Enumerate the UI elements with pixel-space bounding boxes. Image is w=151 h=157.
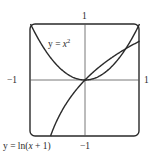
tick-label-bottom: −1	[80, 142, 90, 152]
log-label-rhs: + 1)	[33, 141, 51, 151]
log-label: y = ln(x + 1)	[3, 142, 51, 152]
plot-area	[0, 0, 151, 157]
tick-label-left: −1	[7, 76, 17, 86]
tick-label-right: 1	[144, 76, 149, 86]
tick-label-top: 1	[82, 12, 87, 22]
parabola-label-lhs: y =	[48, 39, 63, 49]
parabola-label: y = x2	[48, 38, 70, 50]
parabola-label-exp: 2	[67, 37, 70, 44]
log-curve	[51, 41, 140, 136]
log-label-lhs: y = ln(	[3, 141, 28, 151]
